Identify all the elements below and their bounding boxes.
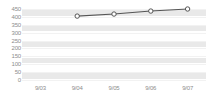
series-line bbox=[77, 9, 187, 16]
y-tick-label: 300 bbox=[1, 30, 21, 36]
y-tick-label: 200 bbox=[1, 45, 21, 51]
x-tick-label: 9/05 bbox=[99, 84, 129, 92]
y-tick-label: 400 bbox=[1, 14, 21, 20]
y-axis: 050100150200250300350400450 bbox=[0, 0, 21, 100]
data-point-marker bbox=[75, 14, 79, 18]
y-tick-label: 350 bbox=[1, 22, 21, 28]
y-tick-label: 250 bbox=[1, 38, 21, 44]
plot-area bbox=[22, 4, 206, 81]
y-tick-label: 50 bbox=[1, 69, 21, 75]
x-tick-label: 9/07 bbox=[173, 84, 203, 92]
data-point-marker bbox=[112, 12, 116, 16]
y-tick-label: 100 bbox=[1, 61, 21, 67]
data-series-layer bbox=[22, 4, 206, 81]
x-tick-label: 9/04 bbox=[62, 84, 92, 92]
y-tick-label: 450 bbox=[1, 6, 21, 12]
data-point-marker bbox=[185, 7, 189, 11]
x-tick-label: 9/06 bbox=[136, 84, 166, 92]
y-tick-label: 0 bbox=[1, 77, 21, 83]
data-point-marker bbox=[149, 9, 153, 13]
x-axis: 9/039/049/059/069/07 bbox=[22, 84, 206, 96]
x-tick-label: 9/03 bbox=[25, 84, 55, 92]
line-chart: 050100150200250300350400450 9/039/049/05… bbox=[0, 0, 210, 100]
y-tick-label: 150 bbox=[1, 53, 21, 59]
